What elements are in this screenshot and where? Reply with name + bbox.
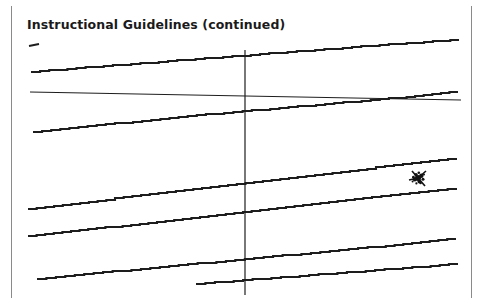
trace-4 xyxy=(28,159,457,209)
annotations-group xyxy=(409,171,426,186)
line-diagram-canvas xyxy=(0,0,489,303)
traces-group xyxy=(28,40,459,284)
trace-7 xyxy=(196,264,458,284)
line-diagram xyxy=(0,0,489,303)
scanned-page: Instructional Guidelines (continued) xyxy=(0,0,489,303)
trace-5 xyxy=(28,189,457,236)
trace-6 xyxy=(37,239,456,279)
trace-1 xyxy=(29,44,39,46)
ink-blot xyxy=(409,171,426,186)
